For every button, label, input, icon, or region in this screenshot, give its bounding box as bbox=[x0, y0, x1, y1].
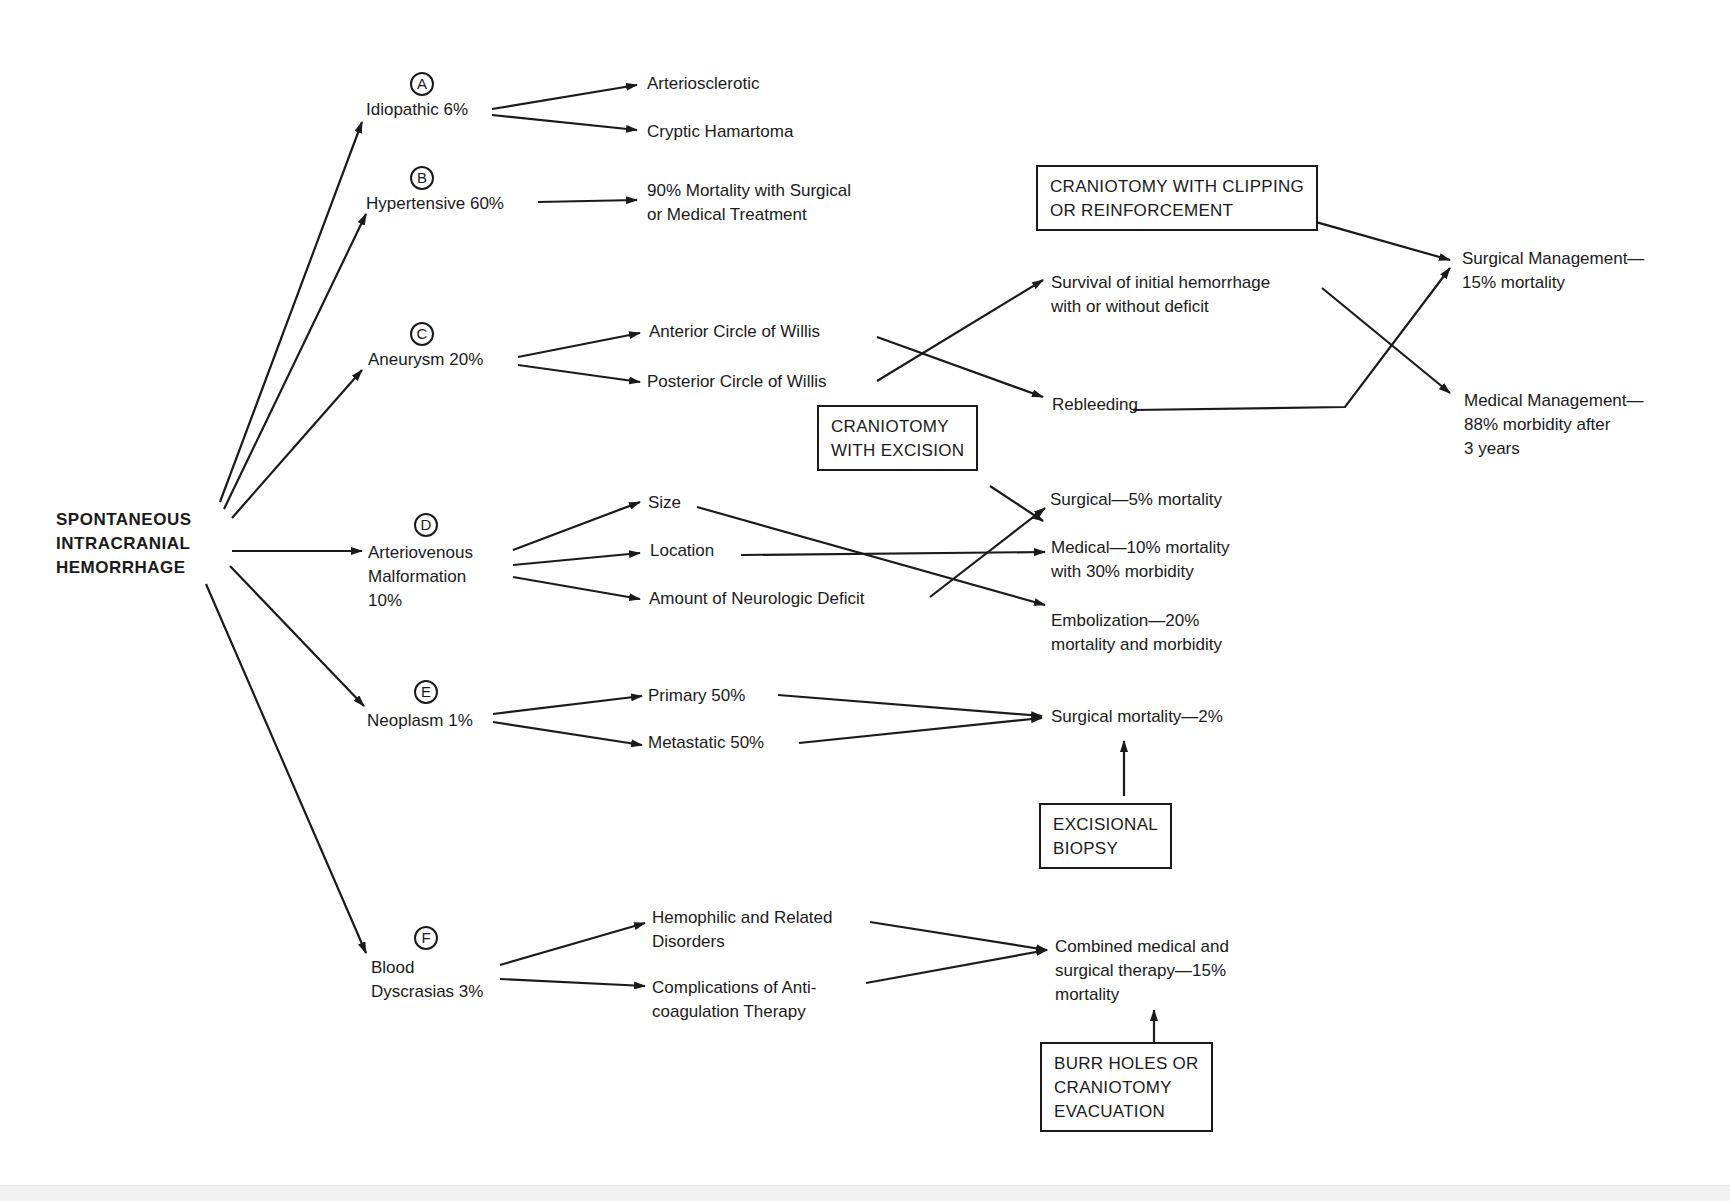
category-label: Neoplasm 1% bbox=[367, 709, 473, 733]
category-label: Blood bbox=[371, 956, 483, 980]
box-line: CRANIOTOMY bbox=[831, 415, 964, 439]
node-neoplasm-surgical-mortality: Surgical mortality—2% bbox=[1051, 705, 1223, 729]
node-line: mortality bbox=[1055, 983, 1229, 1007]
node-line: Embolization—20% bbox=[1051, 609, 1222, 633]
node-anterior-circle-of-willis: Anterior Circle of Willis bbox=[649, 320, 820, 344]
badge-c-icon: C bbox=[410, 322, 434, 346]
node-anticoagulation-complications: Complications of Anti- coagulation Thera… bbox=[652, 976, 816, 1024]
category-label: 10% bbox=[368, 589, 473, 613]
box-line: EXCISIONAL bbox=[1053, 813, 1158, 837]
category-aneurysm: Aneurysm 20% bbox=[368, 348, 483, 372]
node-surgical-management: Surgical Management— 15% mortality bbox=[1462, 247, 1644, 295]
category-label: Idiopathic 6% bbox=[366, 98, 468, 122]
node-survival-initial-hemorrhage: Survival of initial hemorrhage with or w… bbox=[1051, 271, 1270, 319]
procedure-box-burr-holes: BURR HOLES OR CRANIOTOMY EVACUATION bbox=[1040, 1042, 1213, 1132]
procedure-box-craniotomy-clipping: CRANIOTOMY WITH CLIPPING OR REINFORCEMEN… bbox=[1036, 165, 1318, 231]
box-line: CRANIOTOMY bbox=[1054, 1076, 1199, 1100]
category-label: Aneurysm 20% bbox=[368, 348, 483, 372]
node-line: Medical—10% mortality bbox=[1051, 536, 1230, 560]
root-node-spontaneous-intracranial-hemorrhage: SPONTANEOUS INTRACRANIAL HEMORRHAGE bbox=[56, 508, 192, 580]
root-label-line: INTRACRANIAL bbox=[56, 532, 192, 556]
node-line: 15% mortality bbox=[1462, 271, 1644, 295]
category-idiopathic: Idiopathic 6% bbox=[366, 98, 468, 122]
category-hypertensive: Hypertensive 60% bbox=[366, 192, 504, 216]
node-arteriosclerotic: Arteriosclerotic bbox=[647, 72, 759, 96]
node-line: mortality and morbidity bbox=[1051, 633, 1222, 657]
category-label: Malformation bbox=[368, 565, 473, 589]
page-bottom-edge bbox=[0, 1185, 1730, 1201]
category-neoplasm: Neoplasm 1% bbox=[367, 709, 473, 733]
node-line: Surgical—5% mortality bbox=[1050, 488, 1222, 512]
node-line: Hemophilic and Related bbox=[652, 906, 833, 930]
node-line: with or without deficit bbox=[1051, 295, 1270, 319]
node-medical-management: Medical Management— 88% morbidity after … bbox=[1464, 389, 1644, 461]
box-line: CRANIOTOMY WITH CLIPPING bbox=[1050, 175, 1304, 199]
node-posterior-circle-of-willis: Posterior Circle of Willis bbox=[647, 370, 826, 394]
node-size: Size bbox=[648, 491, 681, 515]
node-line: Survival of initial hemorrhage bbox=[1051, 271, 1270, 295]
node-amount-neurologic-deficit: Amount of Neurologic Deficit bbox=[649, 587, 864, 611]
node-line: coagulation Therapy bbox=[652, 1000, 816, 1024]
badge-d-icon: D bbox=[414, 513, 438, 537]
procedure-box-craniotomy-excision: CRANIOTOMY WITH EXCISION bbox=[817, 405, 978, 471]
node-avm-embolization: Embolization—20% mortality and morbidity bbox=[1051, 609, 1222, 657]
node-line: Medical Management— bbox=[1464, 389, 1644, 413]
root-label-line: HEMORRHAGE bbox=[56, 556, 192, 580]
node-primary: Primary 50% bbox=[648, 684, 745, 708]
badge-f-icon: F bbox=[414, 926, 438, 950]
badge-a-icon: A bbox=[410, 72, 434, 96]
root-label-line: SPONTANEOUS bbox=[56, 508, 192, 532]
box-line: OR REINFORCEMENT bbox=[1050, 199, 1304, 223]
node-line: 3 years bbox=[1464, 437, 1644, 461]
node-line: 88% morbidity after bbox=[1464, 413, 1644, 437]
category-arteriovenous-malformation: Arteriovenous Malformation 10% bbox=[368, 541, 473, 613]
category-label: Hypertensive 60% bbox=[366, 192, 504, 216]
outcome-line: 90% Mortality with Surgical bbox=[647, 179, 851, 203]
node-location: Location bbox=[650, 539, 714, 563]
procedure-box-excisional-biopsy: EXCISIONAL BIOPSY bbox=[1039, 803, 1172, 869]
box-line: EVACUATION bbox=[1054, 1100, 1199, 1124]
node-line: with 30% morbidity bbox=[1051, 560, 1230, 584]
node-avm-surgical: Surgical—5% mortality bbox=[1050, 488, 1222, 512]
badge-e-icon: E bbox=[414, 680, 438, 704]
node-rebleeding: Rebleeding bbox=[1052, 393, 1138, 417]
node-hemophilic-disorders: Hemophilic and Related Disorders bbox=[652, 906, 833, 954]
node-line: Combined medical and bbox=[1055, 935, 1229, 959]
badge-b-icon: B bbox=[410, 166, 434, 190]
node-line: Complications of Anti- bbox=[652, 976, 816, 1000]
box-line: BIOPSY bbox=[1053, 837, 1158, 861]
outcome-line: or Medical Treatment bbox=[647, 203, 851, 227]
category-blood-dyscrasias: Blood Dyscrasias 3% bbox=[371, 956, 483, 1004]
category-label: Arteriovenous bbox=[368, 541, 473, 565]
category-label: Dyscrasias 3% bbox=[371, 980, 483, 1004]
node-hypertensive-outcome: 90% Mortality with Surgical or Medical T… bbox=[647, 179, 851, 227]
node-line: Surgical Management— bbox=[1462, 247, 1644, 271]
node-combined-therapy: Combined medical and surgical therapy—15… bbox=[1055, 935, 1229, 1007]
box-line: WITH EXCISION bbox=[831, 439, 964, 463]
node-avm-medical: Medical—10% mortality with 30% morbidity bbox=[1051, 536, 1230, 584]
node-cryptic-hamartoma: Cryptic Hamartoma bbox=[647, 120, 793, 144]
node-line: Surgical mortality—2% bbox=[1051, 705, 1223, 729]
node-line: Disorders bbox=[652, 930, 833, 954]
node-metastatic: Metastatic 50% bbox=[648, 731, 764, 755]
node-line: surgical therapy—15% bbox=[1055, 959, 1229, 983]
box-line: BURR HOLES OR bbox=[1054, 1052, 1199, 1076]
